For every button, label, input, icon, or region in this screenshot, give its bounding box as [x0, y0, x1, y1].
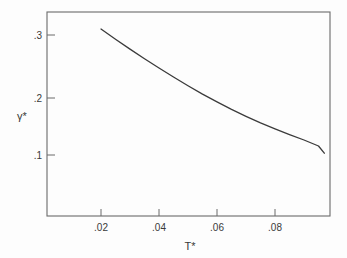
x-axis-title: T* — [185, 240, 197, 252]
x-tick-label-08: .08 — [268, 222, 282, 233]
chart-figure: .3 .2 .1 .02 .04 .06 .08 γ* T* — [0, 0, 347, 258]
y-tick-label-1: .1 — [34, 150, 43, 161]
x-tick-label-04: .04 — [152, 222, 166, 233]
y-tick-label-2: .2 — [34, 93, 43, 104]
figure-background — [0, 0, 347, 258]
y-tick-label-3: .3 — [34, 30, 43, 41]
x-tick-label-02: .02 — [94, 222, 108, 233]
x-tick-label-06: .06 — [210, 222, 224, 233]
y-axis-title: γ* — [17, 110, 28, 122]
